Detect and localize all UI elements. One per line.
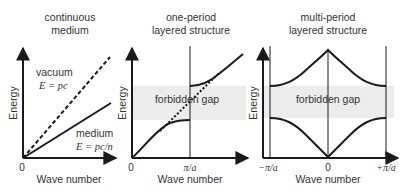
x-tick-origin: 0 (128, 162, 134, 173)
panel-title-line2: medium (51, 24, 89, 36)
y-axis-label: Energy (116, 86, 128, 120)
band-structure-diagram: continuous medium vacuum E = pc medium E… (0, 0, 409, 191)
panel-title-line1: multi-period (301, 11, 356, 23)
forbidden-gap-label: forbidden gap (155, 93, 219, 105)
forbidden-gap-label: forbidden gap (296, 93, 360, 105)
x-tick-left: −π/a (258, 162, 278, 173)
x-tick-origin: 0 (19, 162, 25, 173)
y-axis-label: Energy (7, 86, 19, 120)
upper-band-curve (190, 54, 243, 86)
panel-one-period: one-period layered structure forbidden g… (116, 11, 248, 185)
panel-title-line1: continuous (45, 11, 96, 23)
vacuum-equation: E = pc (38, 80, 68, 91)
x-tick-origin: 0 (325, 162, 331, 173)
medium-label: medium (76, 127, 114, 139)
x-axis-label: Wave number (296, 173, 361, 185)
x-axis-label: Wave number (158, 173, 223, 185)
medium-equation: E = pc/n (75, 141, 113, 152)
lower-band-curve (132, 120, 190, 158)
x-tick-right: +π/a (376, 162, 396, 173)
vacuum-label: vacuum (36, 66, 73, 78)
x-tick-boundary: π/a (184, 162, 197, 173)
y-axis-label: Energy (247, 86, 259, 120)
panel-title-line1: one-period (166, 11, 216, 23)
panel-continuous-medium: continuous medium vacuum E = pc medium E… (7, 11, 116, 185)
panel-title-line2: layered structure (289, 24, 367, 36)
panel-title-line2: layered structure (152, 24, 230, 36)
x-axis-label: Wave number (37, 173, 102, 185)
panel-multi-period: multi-period layered structure forbidden… (247, 11, 398, 185)
